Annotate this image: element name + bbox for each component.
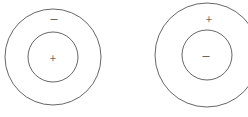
diagram-canvas: – + + – [0,0,248,117]
left-core-plus-icon: + [49,52,56,65]
right-core-minus-icon: – [203,49,210,63]
right-outer-circle [155,3,248,107]
right-shell-plus-icon: + [205,13,212,26]
left-shell-minus-icon: – [51,12,58,26]
right-diagram [155,3,248,107]
